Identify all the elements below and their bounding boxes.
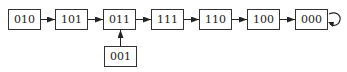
state-node-100: 100	[247, 9, 280, 30]
state-node-001: 001	[104, 46, 137, 67]
state-node-010: 010	[8, 9, 41, 30]
state-node-011: 011	[103, 9, 136, 30]
state-node-000: 000	[295, 9, 328, 30]
state-node-110: 110	[199, 9, 232, 30]
state-node-101: 101	[55, 9, 88, 30]
state-node-111: 111	[151, 9, 184, 30]
self-loop-arrowhead	[328, 22, 334, 27]
